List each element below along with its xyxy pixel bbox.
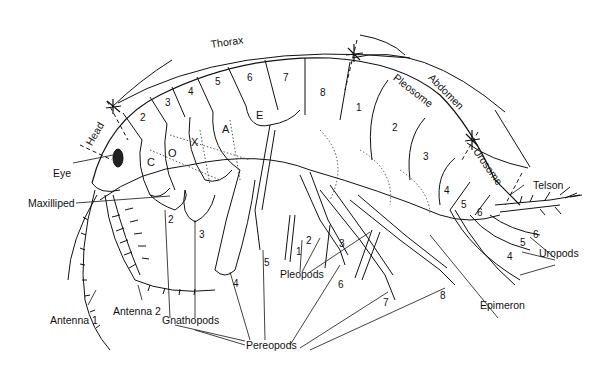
eye-drawing — [113, 149, 123, 167]
thorax-segment-number: 7 — [283, 73, 289, 83]
pereopod-number: 6 — [338, 280, 344, 290]
pleopod-number: 3 — [339, 239, 345, 249]
gnathopod-2-drawing — [150, 190, 186, 210]
eye-label: Eye — [53, 168, 71, 179]
head-bracket — [112, 60, 172, 107]
pereopod-number: 4 — [233, 279, 239, 289]
maxilliped-label: Maxilliped — [28, 198, 75, 209]
uropod-number: 6 — [533, 230, 539, 240]
amphipod-diagram: Head Thorax Abdomen Pleosome Urosome Eye… — [0, 0, 609, 379]
gnathopod-number: 2 — [168, 215, 174, 225]
antenna-2-drawing — [105, 195, 215, 295]
pereopod-8-drawing — [350, 195, 455, 285]
pereopod-5-drawing — [255, 125, 275, 250]
uropods-label: Uropods — [539, 248, 579, 259]
gnathopods-label: Gnathopods — [162, 315, 219, 326]
antenna-1-label: Antenna 1 — [50, 315, 98, 326]
pleosome-segment-number: 1 — [356, 103, 362, 113]
uropod-number: 5 — [520, 238, 526, 248]
coxa-letter: A — [222, 124, 229, 135]
coxa-letter: O — [168, 148, 177, 159]
pleopod-number: 1 — [296, 247, 302, 257]
pereopod-number: 5 — [264, 258, 270, 268]
coxa-letter: X — [191, 137, 198, 148]
uropods-drawing — [450, 210, 540, 285]
epimeron-label: Epimeron — [480, 300, 525, 311]
antenna-2-label: Antenna 2 — [113, 306, 161, 317]
urosome-segment-number: 5 — [461, 200, 467, 210]
coxa-letter: E — [256, 110, 263, 121]
gnathopod-number: 3 — [199, 230, 205, 240]
pereopods-label: Pereopods — [246, 340, 297, 351]
thorax-segment-number: 6 — [247, 73, 253, 83]
thorax-segment-number: 2 — [140, 113, 146, 123]
body-outline — [92, 58, 520, 205]
pereopod-number: 7 — [383, 298, 389, 308]
thorax-segment-number: 3 — [165, 98, 171, 108]
pleopods-label: Pleopods — [280, 269, 324, 280]
telson-label: Telson — [533, 180, 563, 191]
pereopod-number: 8 — [440, 291, 446, 301]
pereopod-4-drawing — [215, 170, 255, 275]
pleopod-number: 2 — [306, 236, 312, 246]
thorax-segment-number: 4 — [188, 87, 194, 97]
pereopod-7-drawing — [320, 185, 395, 300]
urosome-segment-number: 4 — [444, 186, 450, 196]
thorax-segment-number: 8 — [320, 88, 326, 98]
pleosome-segment-number: 2 — [392, 123, 398, 133]
antenna-1-drawing — [68, 190, 110, 350]
urosome-segment-number: 6 — [477, 208, 483, 218]
gnathopod-3-drawing — [184, 190, 215, 222]
coxa-letter: C — [147, 157, 155, 168]
pleosome-segment-number: 3 — [423, 152, 429, 162]
body-ventral-outline — [100, 159, 500, 220]
uropod-number: 4 — [507, 252, 513, 262]
thorax-segment-number: 5 — [215, 77, 221, 87]
